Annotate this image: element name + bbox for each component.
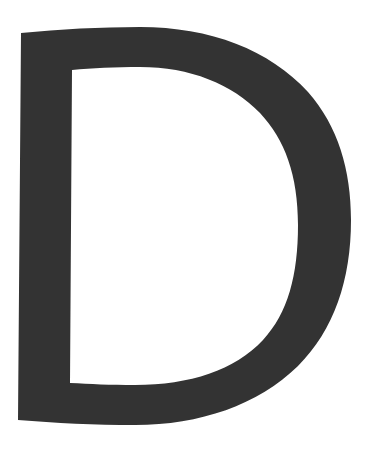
glyph-canvas: D (0, 0, 374, 454)
letter-d-glyph (0, 0, 374, 454)
